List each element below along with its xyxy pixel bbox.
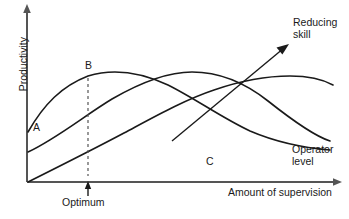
optimum-label: Optimum bbox=[62, 196, 105, 208]
curve-a bbox=[28, 72, 330, 150]
operator-level-text: Operator level bbox=[292, 143, 333, 167]
x-axis-arrowhead bbox=[333, 178, 342, 186]
curve-b bbox=[28, 72, 330, 152]
curve-label-a: A bbox=[33, 121, 40, 133]
optimum-arrow bbox=[85, 181, 91, 196]
productivity-supervision-diagram: Productivity Amount of supervision Optim… bbox=[0, 0, 349, 219]
curve-label-c: C bbox=[206, 155, 214, 167]
operator-level-label: Operator level bbox=[292, 143, 333, 168]
reducing-skill-arrow bbox=[172, 44, 289, 141]
curve-label-b: B bbox=[85, 59, 92, 71]
reducing-skill-label: Reducing skill bbox=[293, 16, 337, 41]
y-axis-arrowhead bbox=[23, 4, 31, 13]
x-axis-title: Amount of supervision bbox=[228, 186, 332, 198]
y-axis-title: Productivity bbox=[17, 19, 29, 109]
reducing-skill-line-1: Reducing skill bbox=[293, 16, 337, 40]
operator-level-upper-curve bbox=[27, 149, 172, 182]
